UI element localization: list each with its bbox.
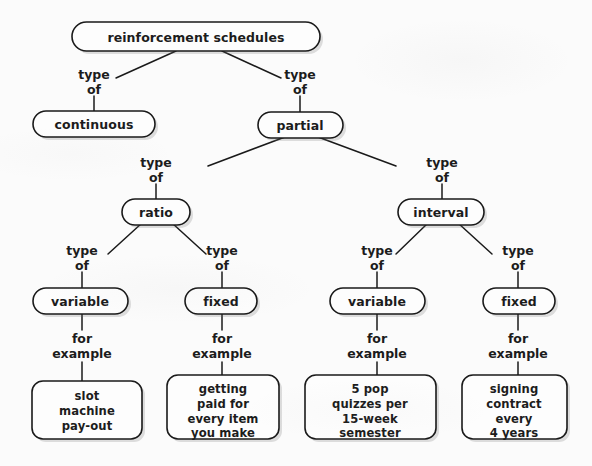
node-interval-label: interval	[413, 205, 468, 220]
link-label-interval-fixed-line1: type	[502, 243, 534, 258]
node-example-getting-paid[interactable]: getting paid for every item you make	[167, 375, 282, 442]
node-partial[interactable]: partial	[258, 112, 346, 141]
node-example-getting-paid-line-0: getting	[199, 382, 247, 396]
link-label-ratio-fixed-line2: of	[215, 258, 230, 273]
node-interval-fixed[interactable]: fixed	[483, 288, 558, 317]
node-interval-variable-label: variable	[348, 294, 406, 309]
node-ratio-variable[interactable]: variable	[33, 288, 131, 317]
link-label-ratio-variable-line2: of	[75, 258, 90, 273]
edge-root-continuous-diagonal	[116, 51, 176, 78]
node-example-slot-machine-line-1: machine	[59, 404, 115, 418]
edge-partial-ratio-diagonal	[208, 137, 285, 166]
node-example-pop-quizzes[interactable]: 5 pop quizzes per 15-week semester	[305, 375, 439, 442]
node-example-getting-paid-line-2: every item	[187, 412, 258, 426]
link-label-interval-variable-line2: of	[370, 258, 385, 273]
edge-partial-interval-diagonal	[318, 137, 396, 166]
link-label-partial-interval-line1: type	[426, 155, 458, 170]
node-example-pop-quizzes-line-2: 15-week	[342, 412, 398, 426]
edge-root-partial-diagonal	[222, 51, 281, 78]
node-partial-label: partial	[276, 118, 323, 133]
link-label-rv-example-line1: for	[72, 331, 93, 346]
node-interval[interactable]: interval	[398, 199, 487, 228]
node-continuous[interactable]: continuous	[33, 111, 158, 140]
link-label-ratio-fixed-line1: type	[206, 243, 238, 258]
node-root[interactable]: reinforcement schedules	[72, 22, 323, 54]
node-ratio-fixed-label: fixed	[203, 294, 239, 309]
node-example-pop-quizzes-line-0: 5 pop	[351, 382, 388, 396]
concept-map-canvas: type of type of type of type of type of …	[0, 0, 592, 466]
link-label-partial-ratio-line1: type	[140, 155, 172, 170]
node-example-getting-paid-line-1: paid for	[197, 397, 249, 411]
node-example-pop-quizzes-line-3: semester	[339, 426, 401, 440]
node-example-slot-machine-line-2: pay-out	[62, 419, 113, 433]
node-continuous-label: continuous	[55, 117, 134, 132]
node-root-label: reinforcement schedules	[107, 30, 284, 45]
link-label-partial-ratio-line2: of	[149, 170, 164, 185]
link-label-rf-example-line2: example	[192, 346, 252, 361]
node-ratio[interactable]: ratio	[122, 199, 193, 228]
node-example-signing-contract-line-0: signing	[490, 382, 539, 396]
node-interval-variable[interactable]: variable	[330, 288, 428, 317]
node-example-signing-contract[interactable]: signing contract every 4 years	[462, 375, 570, 442]
node-example-signing-contract-line-3: 4 years	[490, 426, 539, 440]
link-label-interval-variable-line1: type	[361, 243, 393, 258]
node-example-signing-contract-line-2: every	[495, 412, 532, 426]
node-ratio-fixed[interactable]: fixed	[185, 288, 260, 317]
link-label-iv-example-line2: example	[347, 346, 407, 361]
link-label-if-example-line2: example	[488, 346, 548, 361]
link-label-root-partial-line1: type	[284, 67, 316, 82]
link-label-root-continuous-line1: type	[78, 67, 110, 82]
link-label-rf-example-line1: for	[212, 331, 233, 346]
link-label-root-partial-line2: of	[293, 82, 308, 97]
link-label-if-example-line1: for	[508, 331, 529, 346]
node-ratio-variable-label: variable	[51, 294, 109, 309]
link-label-root-continuous-line2: of	[87, 82, 102, 97]
link-label-iv-example-line1: for	[367, 331, 388, 346]
node-interval-fixed-label: fixed	[501, 294, 537, 309]
link-label-rv-example-line2: example	[52, 346, 112, 361]
link-label-partial-interval-line2: of	[435, 170, 450, 185]
node-example-slot-machine-line-0: slot	[75, 389, 100, 403]
node-example-pop-quizzes-line-1: quizzes per	[332, 397, 408, 411]
node-ratio-label: ratio	[139, 205, 173, 220]
link-label-ratio-variable-line1: type	[66, 243, 98, 258]
node-example-getting-paid-line-3: you make	[191, 426, 255, 440]
concept-map-diagram: type of type of type of type of type of …	[0, 0, 592, 466]
node-example-slot-machine[interactable]: slot machine pay-out	[32, 381, 145, 442]
link-label-interval-fixed-line2: of	[511, 258, 526, 273]
node-example-signing-contract-line-1: contract	[486, 397, 542, 411]
